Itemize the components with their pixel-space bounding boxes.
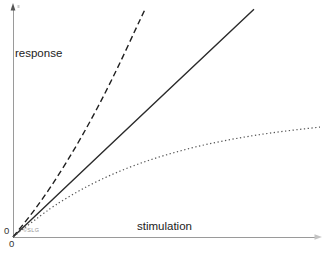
stimulus-response-chart: response stimulation 0 0 ©SLG — [0, 0, 327, 256]
y-axis-arrowhead-icon — [11, 3, 16, 11]
x-axis-label: stimulation — [137, 220, 192, 233]
y-axis-label: response — [15, 47, 62, 60]
y-axis-tip-mark — [18, 5, 20, 8]
series-dashed-curve — [13, 8, 146, 237]
x-axis-zero-label: 0 — [9, 239, 14, 249]
chart-canvas — [0, 0, 327, 256]
x-axis-arrowhead-icon — [315, 234, 323, 239]
series-solid-curve — [13, 9, 254, 237]
watermark: ©SLG — [23, 227, 39, 233]
y-axis-zero-label: 0 — [4, 226, 9, 236]
